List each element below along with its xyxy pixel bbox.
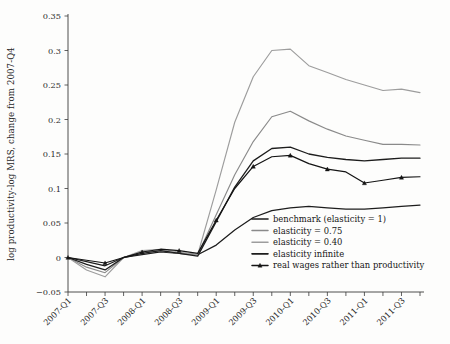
y-tick-label: 0.25 [43, 80, 61, 90]
legend-label-1: elasticity = 0.75 [273, 226, 342, 236]
y-tick-label: 0.1 [48, 184, 61, 194]
chart-container: −0.0500.050.10.150.20.250.30.35log produ… [0, 0, 450, 344]
legend-label-4: real wages rather than productivity [273, 260, 425, 270]
x-tick-label: 2011-Q1 [338, 295, 370, 327]
x-tick-label: 2007-Q1 [41, 295, 73, 327]
x-tick-label: 2009-Q3 [226, 295, 258, 327]
y-tick-label: 0.05 [43, 218, 61, 228]
legend: benchmark (elasticity = 1)elasticity = 0… [252, 214, 425, 270]
legend-label-3: elasticity infinite [273, 249, 344, 259]
series-line-2 [68, 49, 420, 277]
y-axis-label: log productivity-log MRS, change from 20… [6, 47, 16, 261]
line-chart: −0.0500.050.10.150.20.250.30.35log produ… [0, 0, 450, 344]
x-tick-label: 2010-Q1 [264, 295, 296, 327]
legend-label-0: benchmark (elasticity = 1) [273, 214, 386, 224]
y-tick-label: 0.2 [48, 115, 61, 125]
series-group [66, 49, 420, 277]
x-tick-label: 2009-Q1 [189, 295, 221, 327]
y-tick-label: 0.15 [43, 149, 61, 159]
y-tick-label: −0.05 [36, 287, 61, 297]
series-line-1 [68, 111, 420, 272]
x-tick-label: 2011-Q3 [375, 295, 407, 327]
legend-label-2: elasticity = 0.40 [273, 237, 342, 247]
y-tick-label: 0.35 [43, 11, 61, 21]
x-tick-label: 2008-Q1 [115, 295, 147, 327]
y-tick-label: 0 [56, 253, 61, 263]
x-tick-label: 2010-Q3 [301, 295, 333, 327]
x-tick-label: 2007-Q3 [78, 295, 110, 327]
x-tick-label: 2008-Q3 [152, 295, 184, 327]
y-tick-label: 0.3 [48, 46, 61, 56]
